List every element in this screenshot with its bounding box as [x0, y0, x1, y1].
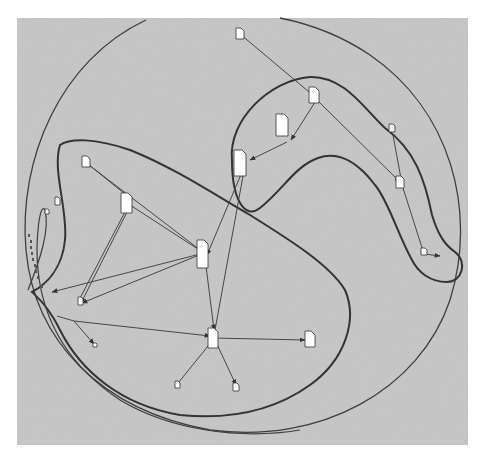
document-icon[interactable]	[78, 297, 83, 305]
document-icon[interactable]	[234, 150, 246, 176]
document-icon[interactable]	[55, 197, 60, 205]
document-icon[interactable]	[309, 87, 319, 103]
figure-caption	[0, 446, 486, 462]
panel-grain	[17, 18, 468, 445]
document-icon[interactable]	[121, 193, 132, 213]
document-icon[interactable]	[421, 248, 427, 255]
document-icon[interactable]	[233, 383, 239, 391]
network-diagram	[0, 0, 486, 462]
document-icon[interactable]	[197, 240, 208, 268]
document-icon[interactable]	[396, 176, 404, 188]
document-icon[interactable]	[93, 343, 97, 347]
document-icon[interactable]	[276, 114, 288, 136]
document-icon[interactable]	[305, 331, 315, 347]
document-icon[interactable]	[208, 328, 218, 348]
document-icon[interactable]	[236, 28, 244, 39]
document-icon[interactable]	[82, 156, 90, 167]
document-icon[interactable]	[175, 381, 180, 388]
document-icon[interactable]	[45, 209, 49, 214]
document-icon[interactable]	[389, 124, 395, 132]
